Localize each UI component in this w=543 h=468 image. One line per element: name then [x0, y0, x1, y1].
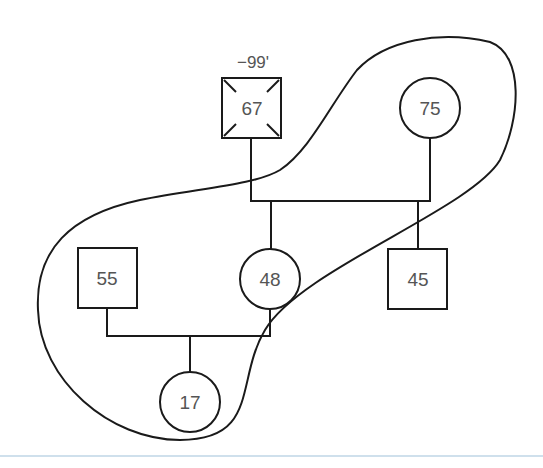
bottom-divider — [0, 455, 543, 457]
node-grandfather[interactable]: 67 — [222, 78, 281, 138]
node-label: 55 — [96, 268, 117, 289]
marriage-line-grandparents — [251, 138, 430, 201]
node-son[interactable]: 45 — [388, 249, 447, 309]
node-label: 67 — [241, 98, 262, 119]
node-daughter[interactable]: 48 — [240, 249, 300, 309]
node-label: 75 — [419, 98, 440, 119]
node-granddaughter[interactable]: 17 — [160, 372, 220, 432]
pedigree-diagram: −99' 67 75 55 48 45 17 — [0, 0, 543, 468]
node-label: 17 — [179, 392, 200, 413]
node-grandmother[interactable]: 75 — [400, 78, 460, 138]
marriage-line-parents — [107, 308, 270, 336]
deceased-annotation: −99' — [237, 53, 269, 72]
node-label: 48 — [259, 269, 280, 290]
node-label: 45 — [407, 269, 428, 290]
node-son-in-law[interactable]: 55 — [78, 248, 137, 308]
